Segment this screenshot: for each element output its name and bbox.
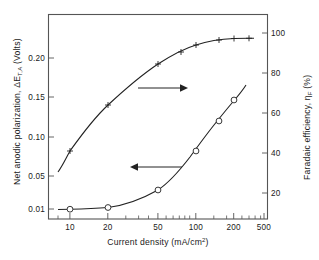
chart-svg: 0.20 0.15 0.10 0.05 0.01 Net anodic pola… <box>0 0 319 260</box>
right-axis-title-main2: (%) <box>302 75 312 92</box>
series-faradaic-efficiency <box>58 35 254 172</box>
net-anodic-polarization-markers <box>67 97 237 212</box>
right-tick-label-20: 20 <box>271 189 281 198</box>
right-axis-title: Faradaic efficiency, ηF (%) <box>302 75 313 180</box>
right-tick-label-60: 60 <box>271 109 281 118</box>
right-axis-title-main1: Faradaic efficiency, <box>302 100 312 180</box>
x-tick-label-200: 200 <box>227 223 242 232</box>
right-axis-ticks <box>262 33 268 193</box>
left-tick-label-020: 0.20 <box>28 54 45 63</box>
x-tick-label-10: 10 <box>65 223 75 232</box>
right-tick-label-80: 80 <box>271 69 281 78</box>
left-tick-label-015: 0.15 <box>28 93 45 102</box>
right-axis-tick-labels: 100 80 60 40 20 <box>271 29 286 198</box>
right-tick-label-40: 40 <box>271 149 281 158</box>
right-tick-label-100: 100 <box>271 29 286 38</box>
left-tick-label-001: 0.01 <box>28 205 45 214</box>
arrow-to-right-axis <box>138 84 188 92</box>
left-axis-title: Net anodic polarization, ΔET,A (Volts) <box>12 38 23 185</box>
x-tick-label-500: 500 <box>257 223 272 232</box>
x-axis-title-main: Current density (mA/cm <box>107 237 202 247</box>
left-axis-title-main1: Net anodic polarization, <box>12 88 22 185</box>
faradaic-efficiency-markers <box>67 35 252 154</box>
faradaic-efficiency-curve <box>58 38 254 172</box>
left-axis-ticks <box>49 58 55 209</box>
left-tick-label-010: 0.10 <box>28 133 45 142</box>
x-axis-title: Current density (mA/cm2) <box>107 237 208 247</box>
svg-text:Faradaic efficiency, ηF (%): Faradaic efficiency, ηF (%) <box>302 75 313 180</box>
left-tick-label-005: 0.05 <box>28 172 45 181</box>
arrow-to-left-axis <box>130 163 182 171</box>
x-axis-major-ticks <box>70 213 264 219</box>
x-tick-label-50: 50 <box>153 223 163 232</box>
chart-figure: 0.20 0.15 0.10 0.05 0.01 Net anodic pola… <box>0 0 319 260</box>
x-tick-label-100: 100 <box>189 223 204 232</box>
left-axis-tick-labels: 0.20 0.15 0.10 0.05 0.01 <box>28 54 45 214</box>
x-tick-label-20: 20 <box>103 223 113 232</box>
svg-text:Net anodic polarization, ΔET,A: Net anodic polarization, ΔET,A (Volts) <box>12 38 23 185</box>
series-net-anodic-polarization <box>58 85 246 212</box>
net-anodic-polarization-curve <box>58 85 246 210</box>
left-axis-title-sub: T,A <box>17 67 23 76</box>
x-axis-tick-labels: 10 20 50 100 200 500 <box>65 223 271 232</box>
left-axis-title-main2: (Volts) <box>12 38 22 66</box>
svg-text:Current density (mA/cm2): Current density (mA/cm2) <box>107 237 208 247</box>
x-axis-title-tail: ) <box>206 237 209 247</box>
left-axis-title-delta: ΔE <box>12 76 22 88</box>
